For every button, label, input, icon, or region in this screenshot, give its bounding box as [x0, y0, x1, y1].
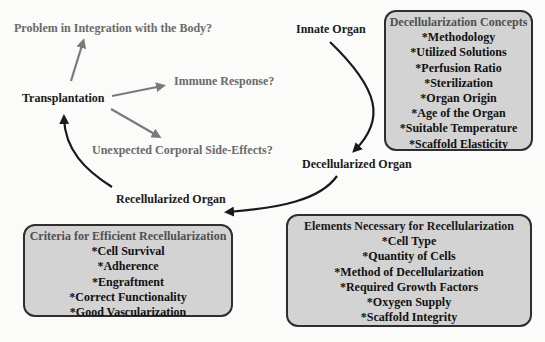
box-item: *Correct Functionality	[25, 290, 231, 305]
box-item: *Quantity of Cells	[288, 249, 530, 264]
box-item: *Organ Origin	[386, 91, 531, 106]
arrow-to-integration	[71, 42, 83, 81]
node-decellularized-organ: Decellularized Organ	[302, 157, 412, 172]
arrow-to-immune	[112, 86, 162, 96]
arrow-decell-to-recell	[228, 176, 337, 212]
box-item: *Age of the Organ	[386, 106, 531, 121]
box-item: *Methodology	[386, 30, 531, 45]
box-item: *Suitable Temperature	[386, 121, 531, 136]
box-item: *Required Growth Factors	[288, 280, 530, 295]
box-decellularization-concepts: Decellularization Concepts *Methodology …	[384, 10, 533, 151]
box-item: *Oxygen Supply	[288, 295, 530, 310]
question-immune: Immune Response?	[174, 74, 274, 89]
node-recellularized-organ: Recellularized Organ	[116, 192, 226, 207]
box-item: *Scaffold Elasticity	[386, 137, 531, 152]
node-innate-organ: Innate Organ	[296, 22, 366, 37]
question-integration: Problem in Integration with the Body?	[14, 21, 212, 36]
box-item: *Good Vascularization	[25, 305, 231, 320]
box-item: *Perfusion Ratio	[386, 61, 531, 76]
arrow-to-side-effects	[111, 109, 158, 136]
box-item: *Cell Type	[288, 234, 530, 249]
box-item: *Cell Survival	[25, 244, 231, 259]
box-title: Decellularization Concepts	[386, 15, 531, 30]
box-item: *Utilized Solutions	[386, 45, 531, 60]
box-item: *Adherence	[25, 259, 231, 274]
box-item: *Method of Decellularization	[288, 265, 530, 280]
box-title: Criteria for Efficient Recellularization	[25, 229, 231, 244]
box-recellularization-elements: Elements Necessary for Recellularization…	[286, 214, 532, 327]
box-recellularization-criteria: Criteria for Efficient Recellularization…	[23, 224, 233, 317]
node-transplantation: Transplantation	[22, 91, 104, 106]
question-side-effects: Unexpected Corporal Side-Effects?	[92, 143, 273, 158]
box-item: *Sterilization	[386, 76, 531, 91]
arrow-innate-to-decell	[330, 42, 374, 150]
box-title: Elements Necessary for Recellularization	[288, 219, 530, 234]
box-item: *Engraftment	[25, 275, 231, 290]
box-item: *Scaffold Integrity	[288, 310, 530, 325]
